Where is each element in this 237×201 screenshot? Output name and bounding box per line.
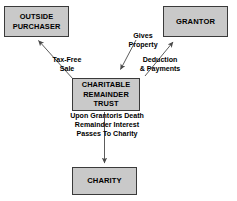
edge-label-deduction-and-payments: Deduction & Payments [130,56,190,74]
edge-label-gives-property: Gives Property [122,32,164,50]
node-charity-label: CHARITY [73,176,136,186]
node-charitable-remainder-trust-label: CHARITABLE REMAINDER TRUST [73,80,139,109]
node-grantor-label: GRANTOR [164,17,227,27]
node-outside-purchaser-label: OUTSIDE PURCHASER [5,12,68,31]
edge-label-remainder-passes-to-charity: Upon Grantoris Death Remainder Interest … [55,112,159,140]
node-charitable-remainder-trust: CHARITABLE REMAINDER TRUST [72,78,140,111]
edge-label-tax-free-sale: Tax-Free Sale [44,56,90,74]
node-grantor: GRANTOR [163,6,228,37]
node-outside-purchaser: OUTSIDE PURCHASER [4,6,69,37]
node-charity: CHARITY [72,167,137,195]
diagram-canvas: OUTSIDE PURCHASER GRANTOR CHARITABLE REM… [0,0,237,201]
